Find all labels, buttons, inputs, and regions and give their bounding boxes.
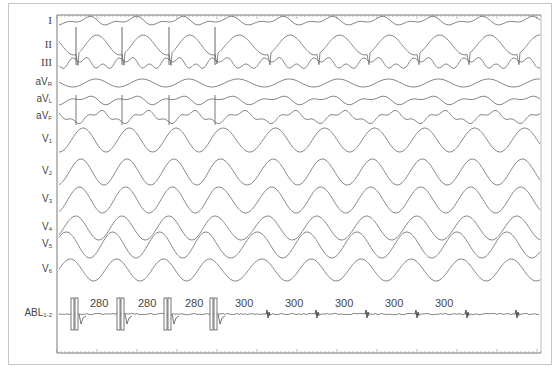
lead-label-II: II (8, 39, 52, 50)
cycle-length-label: 300 (285, 298, 303, 309)
trace-V5 (59, 232, 540, 258)
lead-label-aVF: aVF (8, 111, 52, 123)
lead-label-ABL: ABL1-2 (8, 308, 52, 320)
trace-V6 (59, 259, 540, 281)
ecg-tracing (0, 0, 557, 370)
cycle-length-label: 300 (235, 298, 253, 309)
lead-label-aVR: aVR (8, 77, 52, 89)
trace-II (59, 35, 540, 65)
cycle-length-label: 300 (385, 298, 403, 309)
lead-label-I: I (8, 15, 52, 26)
ecg-traces (59, 16, 540, 330)
trace-aVF (59, 110, 540, 123)
cycle-length-label: 280 (90, 298, 108, 309)
trace-V3 (59, 187, 540, 213)
trace-V1 (59, 128, 540, 152)
lead-label-III: III (8, 57, 52, 68)
trace-I (59, 16, 540, 25)
trace-V2 (59, 159, 540, 185)
cycle-length-label: 280 (138, 298, 156, 309)
lead-label-V4: V4 (8, 222, 52, 234)
lead-label-V3: V3 (8, 194, 52, 206)
lead-label-aVL: aVL (8, 94, 52, 106)
cycle-length-label: 280 (185, 298, 203, 309)
cycle-length-label: 300 (335, 298, 353, 309)
lead-label-V6: V6 (8, 264, 52, 276)
trace-aVL (59, 96, 540, 105)
lead-label-V5: V5 (8, 239, 52, 251)
lead-label-V2: V2 (8, 166, 52, 178)
trace-aVR (59, 79, 540, 87)
lead-label-V1: V1 (8, 134, 52, 146)
trace-V4 (59, 216, 540, 240)
cycle-length-label: 300 (435, 298, 453, 309)
